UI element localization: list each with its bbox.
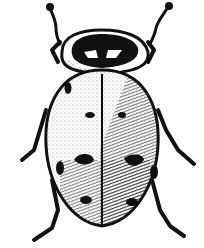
antenna-left xyxy=(48,5,61,45)
antenna-right xyxy=(150,4,172,45)
pronotum xyxy=(62,30,149,74)
ladybug-illustration xyxy=(0,0,204,248)
elytra xyxy=(40,70,170,230)
